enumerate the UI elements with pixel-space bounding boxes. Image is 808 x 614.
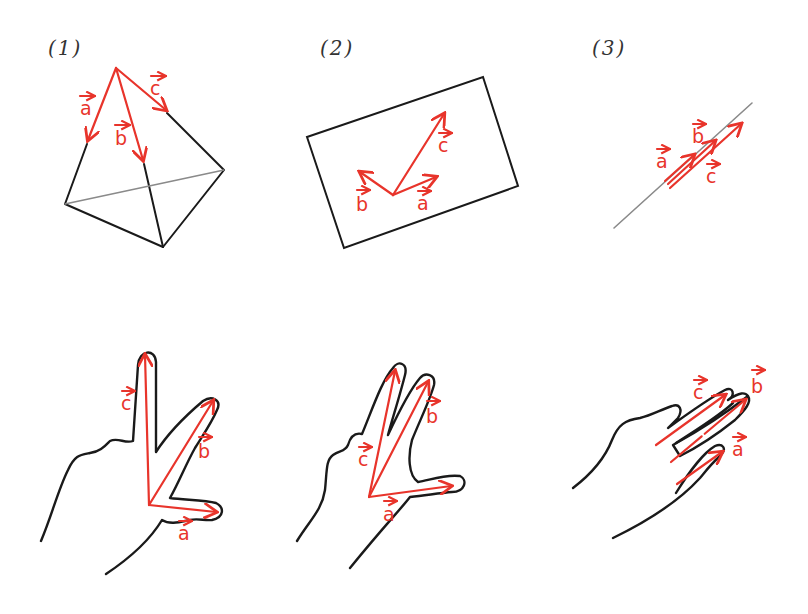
hand-3-thumb [613, 445, 724, 538]
tetra-edge [65, 204, 163, 247]
vector-c-label: c [150, 76, 166, 99]
vector-c-label: c [693, 380, 707, 403]
svg-text:c: c [358, 448, 368, 470]
svg-text:b: b [356, 193, 368, 215]
vector-diagram: a b c c b a [0, 0, 808, 614]
svg-text:a: a [178, 522, 190, 544]
svg-text:b: b [426, 405, 438, 427]
vector-a-label: a [732, 437, 746, 460]
vector-b-arrow [360, 172, 393, 195]
vector-c-label: c [438, 133, 452, 156]
vector-a-label: a [80, 96, 95, 119]
vector-b-label: b [692, 124, 706, 147]
vector-b-label: b [198, 437, 212, 462]
vector-a-arrow [149, 505, 216, 512]
svg-text:a: a [383, 503, 395, 525]
vector-a-arrow [369, 486, 451, 497]
plane-figure: c b a [307, 77, 518, 248]
vector-c-arrow [369, 371, 395, 497]
hand-2-outline [297, 364, 464, 568]
vector-a-label: a [417, 191, 431, 214]
vector-a-label: a [383, 501, 397, 525]
hand-3-outline [573, 389, 749, 488]
vector-b-label: b [115, 125, 130, 149]
svg-text:a: a [80, 97, 92, 119]
line-figure: b a c [614, 103, 752, 228]
vector-a-arrow [88, 68, 116, 140]
vector-b-label: b [356, 190, 370, 215]
vector-c-label: c [358, 447, 372, 470]
svg-text:c: c [438, 134, 448, 156]
svg-text:b: b [115, 127, 127, 149]
svg-text:a: a [417, 192, 429, 214]
tetra-edge [167, 113, 224, 170]
svg-text:b: b [692, 125, 704, 147]
hand-1-outline [41, 353, 222, 574]
vector-c-arrow [393, 114, 444, 195]
svg-text:c: c [150, 77, 160, 99]
svg-text:c: c [706, 165, 716, 187]
svg-text:a: a [656, 150, 668, 172]
vector-c-arrow [145, 355, 149, 505]
vector-c-label: c [706, 164, 720, 187]
vector-a-arrow [665, 155, 694, 181]
svg-text:b: b [751, 375, 763, 397]
svg-text:a: a [732, 438, 744, 460]
svg-text:c: c [693, 381, 703, 403]
svg-text:b: b [198, 440, 210, 462]
vector-a-label: a [178, 521, 192, 544]
vector-a-label: a [656, 149, 670, 172]
vector-b-label: b [751, 370, 765, 397]
hand-3-figure: c b a [573, 370, 765, 538]
tetra-edge [144, 164, 163, 247]
hand-1-figure: c b a [41, 353, 222, 574]
tetrahedron-figure: a b c [65, 68, 224, 247]
vector-b-label: b [426, 401, 440, 427]
hand-2-figure: c b a [297, 364, 464, 568]
tetra-edge [65, 144, 87, 204]
svg-text:c: c [121, 392, 131, 414]
vector-c-label: c [121, 391, 135, 414]
